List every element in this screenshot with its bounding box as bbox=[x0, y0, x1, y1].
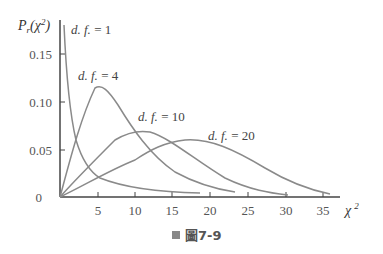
label-df1: d. f. = 1 bbox=[71, 22, 111, 37]
x-tick-30: 30 bbox=[280, 203, 293, 218]
x-tick-35: 35 bbox=[317, 203, 330, 218]
curve-df20 bbox=[60, 140, 330, 197]
x-axis-title: χ2 bbox=[343, 201, 359, 218]
caption-square-icon bbox=[172, 231, 180, 239]
y-tick-015: 0.15 bbox=[29, 47, 52, 62]
y-tick-005: 0.05 bbox=[29, 143, 52, 158]
x-ticks: 5 10 15 20 25 30 35 bbox=[95, 192, 330, 218]
x-tick-5: 5 bbox=[95, 203, 102, 218]
x-tick-25: 25 bbox=[242, 203, 255, 218]
x-tick-10: 10 bbox=[129, 203, 142, 218]
label-df4: d. f. = 4 bbox=[78, 68, 119, 83]
label-df20: d. f. = 20 bbox=[208, 128, 255, 143]
y-axis-title: Pr(χ2) bbox=[17, 17, 50, 35]
x-tick-15: 15 bbox=[166, 203, 179, 218]
label-df10: d. f. = 10 bbox=[138, 109, 185, 124]
y-tick-010: 0.10 bbox=[29, 95, 52, 110]
y-tick-0: 0 bbox=[36, 190, 43, 205]
chi-square-chart: 0 0.05 0.10 0.15 5 10 15 20 25 30 35 Pr(… bbox=[0, 0, 383, 254]
caption-text: 圖7-9 bbox=[185, 225, 222, 244]
figure-caption: 圖7-9 bbox=[172, 225, 222, 244]
curves bbox=[60, 25, 330, 197]
x-tick-20: 20 bbox=[204, 203, 217, 218]
